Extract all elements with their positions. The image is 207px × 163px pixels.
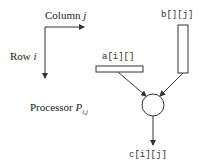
a-row-vector	[96, 66, 143, 72]
b-to-processor-arrow-icon	[160, 73, 183, 96]
b-column-label: b[][j]	[161, 10, 193, 20]
row-label: Row i	[10, 50, 37, 62]
c-output-label: c[i][j]	[129, 150, 167, 160]
a-to-processor-arrow-icon	[118, 72, 146, 96]
a-row-label: a[i][]	[102, 52, 134, 62]
diagram-svg: Column j Row i a[i][] b[][j] Processor P…	[0, 0, 207, 163]
input-a: a[i][]	[96, 52, 146, 96]
input-b: b[][j]	[160, 10, 193, 96]
matrix-multiply-diagram: Column j Row i a[i][] b[][j] Processor P…	[0, 0, 207, 163]
processor-node	[142, 94, 164, 116]
b-column-vector	[178, 25, 188, 73]
column-label: Column j	[45, 9, 86, 21]
axes: Column j Row i	[10, 9, 86, 78]
output: c[i][j]	[129, 116, 167, 160]
processor-label: Processor Pi,j	[30, 101, 88, 116]
processor: Processor Pi,j	[30, 94, 164, 116]
